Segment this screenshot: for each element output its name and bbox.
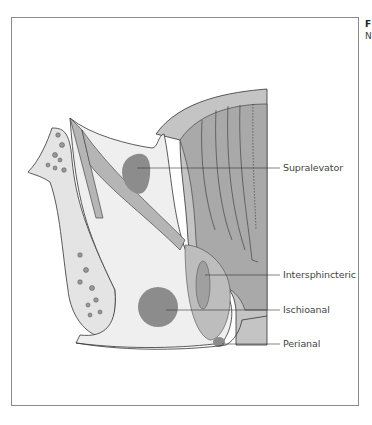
label-supralevator: Supralevator [283, 162, 343, 173]
internal-sphincter [196, 261, 210, 309]
figure-caption-title-fragment: F [365, 19, 371, 29]
label-perianal: Perianal [283, 338, 320, 349]
anorectal-anatomy-illustration [0, 0, 372, 425]
ischioanal-abscess [138, 287, 178, 327]
label-intersphincteric: Intersphincteric [283, 269, 356, 280]
figure-caption-text-fragment: N [365, 31, 372, 41]
label-ischioanal: Ischioanal [283, 304, 330, 315]
